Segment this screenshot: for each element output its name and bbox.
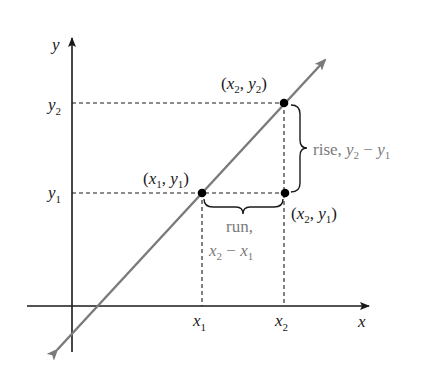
x-axis-label: x (357, 312, 366, 331)
label-point-x2-y1: (x2, y1) (291, 204, 337, 225)
rise-label: rise, y2 − y1 (313, 140, 390, 161)
tick-x2: x2 (274, 311, 288, 333)
point-x1-y1 (198, 189, 207, 198)
run-brace (204, 199, 283, 214)
tick-x1: x1 (192, 311, 206, 333)
tick-y1: y1 (46, 183, 61, 205)
point-x2-y1 (281, 189, 290, 198)
y-axis-label: y (50, 35, 60, 54)
slope-diagram: y x y2 y1 x1 x2 (x1, y1) (x2, y2) (x2, y… (0, 0, 446, 368)
run-label-expr: x2 − x1 (208, 241, 253, 262)
tick-y2: y2 (46, 95, 61, 117)
rise-brace (291, 105, 307, 192)
guide-lines (72, 103, 285, 306)
run-label-word: run, (226, 217, 253, 236)
label-point-x1-y1: (x1, y1) (143, 169, 189, 190)
point-x2-y2 (280, 99, 289, 108)
label-point-x2-y2: (x2, y2) (221, 74, 267, 95)
axes (27, 38, 369, 352)
